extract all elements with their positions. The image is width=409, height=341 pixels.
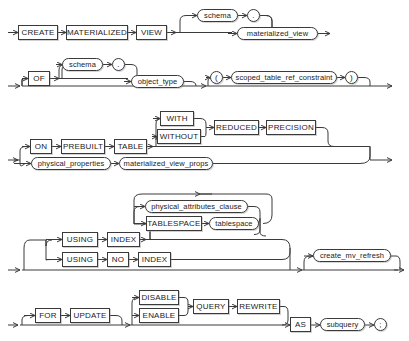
keyword-materialized: MATERIALIZED	[66, 25, 128, 40]
keyword-index-1: INDEX	[107, 232, 140, 247]
keyword-using-1: USING	[62, 232, 98, 247]
keyword-create: CREATE	[18, 25, 58, 40]
nonterminal-object-type: object_type	[131, 75, 184, 88]
punct-rparen-1: )	[345, 71, 358, 84]
nonterminal-materialized-view-props: materialized_view_props	[119, 157, 213, 170]
keyword-of: OF	[28, 71, 50, 86]
keyword-reduced: REDUCED	[214, 120, 259, 135]
punct-dot-2: .	[112, 58, 125, 71]
nonterminal-subquery: subquery	[320, 318, 365, 331]
keyword-table: TABLE	[114, 139, 147, 154]
keyword-update: UPDATE	[70, 308, 110, 323]
keyword-on: ON	[30, 139, 52, 154]
keyword-no: NO	[107, 252, 129, 267]
keyword-rewrite: REWRITE	[237, 299, 280, 314]
keyword-index-2: INDEX	[138, 252, 171, 267]
nonterminal-physical-attributes-clause: physical_attributes_clause	[145, 200, 248, 213]
punct-dot-1: .	[247, 9, 260, 22]
railroad-diagram: CREATEMATERIALIZEDVIEWschema.materialize…	[0, 0, 409, 341]
keyword-enable: ENABLE	[139, 308, 179, 323]
nonterminal-schema-1: schema	[197, 9, 238, 22]
rail-lines	[0, 0, 409, 341]
keyword-without: WITHOUT	[157, 129, 201, 144]
nonterminal-tablespace: tablespace	[209, 217, 259, 230]
nonterminal-create-mv-refresh: create_mv_refresh	[313, 249, 391, 262]
nonterminal-physical-properties: physical_properties	[31, 157, 111, 170]
keyword-view: VIEW	[136, 25, 167, 40]
nonterminal-schema-2: schema	[62, 58, 103, 71]
keyword-as: AS	[290, 317, 311, 332]
nonterminal-materialized-view: materialized_view	[237, 27, 318, 40]
keyword-with: WITH	[160, 111, 194, 126]
punct-lparen-1: (	[210, 71, 223, 84]
keyword-disable: DISABLE	[139, 290, 179, 305]
keyword-query: QUERY	[193, 299, 229, 314]
punct-semicolon: ;	[374, 318, 387, 331]
keyword-precision: PRECISION	[266, 120, 316, 135]
keyword-tablespace: TABLESPACE	[146, 216, 202, 231]
keyword-for: FOR	[35, 308, 61, 323]
keyword-using-2: USING	[62, 252, 98, 267]
keyword-prebuilt: PREBUILT	[61, 139, 105, 154]
nonterminal-scoped-table-ref-constraint: scoped_table_ref_constraint	[231, 71, 337, 84]
